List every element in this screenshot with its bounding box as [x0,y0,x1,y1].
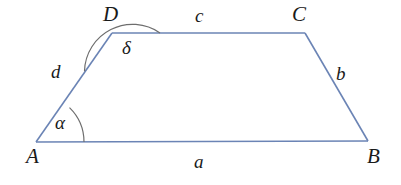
vertex-label-a: A [26,146,39,167]
side-b-line [305,33,368,141]
angle-label-alpha: α [55,113,65,132]
side-label-b: b [336,64,346,83]
angle-arc-alpha [70,108,85,142]
side-label-a: a [194,152,204,171]
angle-label-delta: δ [122,38,131,57]
side-a-line [36,141,368,142]
vertex-label-b: B [367,146,380,167]
trapezoid-figure: A B C D a b c d α δ [0,0,401,185]
vertex-label-c: C [292,4,306,25]
side-label-d: d [51,62,61,81]
side-label-c: c [195,6,203,25]
side-d-line [36,33,112,142]
vertex-label-d: D [103,4,118,25]
